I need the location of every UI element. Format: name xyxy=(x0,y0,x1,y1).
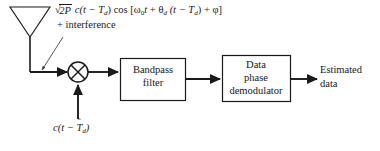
local-code-hat-mark: ˆ xyxy=(78,118,81,127)
local-code-label: c(t − ˆTd) xyxy=(53,122,89,135)
local-code-prefix: c(t − xyxy=(53,122,76,133)
demodulator-label-line3: demodulator xyxy=(221,84,291,97)
bandpass-filter-label: Bandpass filter xyxy=(120,63,186,89)
local-code-hat-group: ˆT xyxy=(76,122,82,134)
eq-omega-t: t xyxy=(144,4,147,15)
eq-cos-open: ) cos [ xyxy=(108,4,134,15)
data-phase-demodulator-label: Data phase demodulator xyxy=(221,58,291,97)
antenna-icon xyxy=(10,7,50,72)
estimated-data-line1: Estimated xyxy=(320,63,362,77)
signal-pointer-arrow xyxy=(42,37,63,70)
eq-phase-close: ) + φ] xyxy=(198,4,222,15)
bandpass-filter-label-line1: Bandpass xyxy=(120,63,186,76)
estimated-data-label: Estimated data xyxy=(320,63,362,90)
demodulator-label-line1: Data xyxy=(221,58,291,71)
eq-envelope: c(t − T xyxy=(75,4,104,15)
eq-theta-sub: d xyxy=(163,9,167,17)
eq-omega: ω xyxy=(134,4,141,15)
interference-label: + interference xyxy=(57,19,116,31)
diagram-canvas: √2P c(t − Td) cos [ω0t + θd (t − Td) + φ… xyxy=(0,0,380,151)
sqrt-symbol: √2P xyxy=(54,3,72,16)
eq-plus: + xyxy=(150,4,156,15)
received-signal-equation: √2P c(t − Td) cos [ω0t + θd (t − Td) + φ… xyxy=(54,3,222,17)
eq-theta-arg: (t − T xyxy=(170,4,195,15)
estimated-data-line2: data xyxy=(320,77,362,91)
demodulator-label-line2: phase xyxy=(221,71,291,84)
mixer-icon xyxy=(68,62,88,82)
bandpass-filter-label-line2: filter xyxy=(120,76,186,89)
local-code-suffix: ) xyxy=(86,122,90,133)
